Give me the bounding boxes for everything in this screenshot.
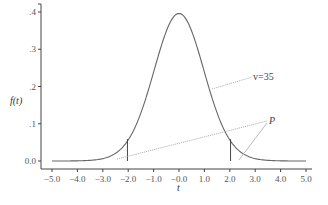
y-axis-title: f(t) [10,95,23,107]
x-tick-label: 3.0 [250,174,262,184]
p-leader-line-right [239,123,267,160]
p-label: P [268,115,275,126]
y-tick-label: .4 [29,7,36,17]
t-distribution-chart: 0.0.1.2.3.4 −5.0−4.0−3.0−2.0−1.0−0.01.02… [0,0,328,205]
x-tick-label: 4.0 [275,174,287,184]
df-leader-line [212,77,252,89]
df-label: v=35 [253,71,274,82]
density-curve [52,13,306,161]
y-tick-label: .3 [29,44,36,54]
x-tick-label: 2.0 [224,174,236,184]
y-tick-label: 0.0 [25,156,37,166]
x-tick-label: −4.0 [69,174,86,184]
y-tick-label: .2 [29,82,36,92]
x-tick-label: −2.0 [120,174,137,184]
y-tick-label: .1 [29,119,36,129]
x-tick-label: −5.0 [44,174,61,184]
x-tick-label: −1.0 [145,174,162,184]
x-tick-label: 1.0 [199,174,211,184]
x-axis-title: t [177,182,180,193]
x-tick-label: 5.0 [300,174,312,184]
y-ticks: 0.0.1.2.3.4 [25,7,41,166]
x-tick-label: −3.0 [95,174,112,184]
